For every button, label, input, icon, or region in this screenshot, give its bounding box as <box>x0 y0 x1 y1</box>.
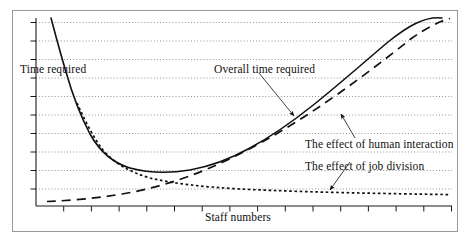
annotation-overall-time: Overall time required <box>214 64 315 76</box>
x-axis-label: Staff numbers <box>205 212 271 224</box>
human-interaction-curve <box>47 19 450 202</box>
leader-human <box>341 114 355 138</box>
leader-overall <box>259 73 294 116</box>
y-axis-ticks <box>31 23 37 190</box>
annotation-job-division: The effect of job division <box>305 161 424 173</box>
axis-lines <box>36 18 452 206</box>
y-axis-label: Time required <box>20 64 86 76</box>
annotation-human-interaction: The effect of human interaction <box>305 139 454 151</box>
chart-figure: Time required Staff numbers Overall time… <box>0 0 471 248</box>
